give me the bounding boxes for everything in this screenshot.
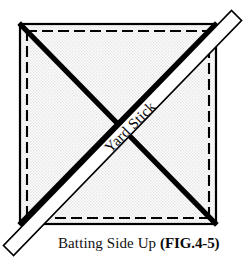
caption-figure-number: (FIG.4-5)	[160, 233, 220, 254]
figure-illustration: Yard Stick Batting Side Up (FIG.4-5)	[0, 0, 249, 268]
figure-drawing-canvas	[0, 0, 249, 268]
figure-caption-row: Batting Side Up (FIG.4-5)	[0, 233, 249, 257]
caption-batting-side-up: Batting Side Up	[58, 233, 156, 254]
